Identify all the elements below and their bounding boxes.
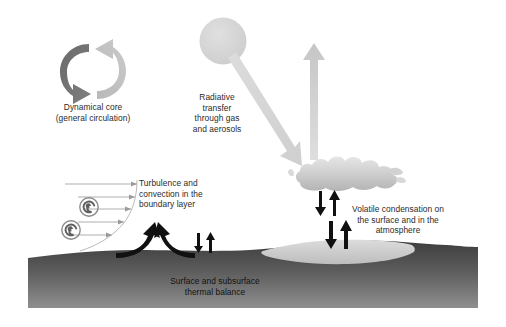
- turbulent-eddy-spirals: [62, 198, 98, 239]
- label-radiative-transfer: Radiative transfer through gas and aeros…: [182, 92, 252, 134]
- climate-model-diagram: Dynamical core (general circulation) Rad…: [0, 0, 506, 327]
- label-turbulence-convection: Turbulence and convection in the boundar…: [139, 178, 235, 210]
- label-surface-thermal-balance: Surface and subsurface thermal balance: [152, 276, 278, 297]
- surface-exchange-arrows-bare: [194, 232, 215, 253]
- circulation-arrow-light: [95, 39, 126, 99]
- outgoing-radiation-arrow: [303, 43, 325, 160]
- circulation-arrow-dark: [60, 44, 91, 104]
- label-dynamical-core: Dynamical core (general circulation): [23, 102, 163, 123]
- sun-disk: [200, 18, 247, 65]
- cloud: [288, 157, 406, 191]
- label-volatile-condensation: Volatile condensation on the surface and…: [333, 204, 463, 236]
